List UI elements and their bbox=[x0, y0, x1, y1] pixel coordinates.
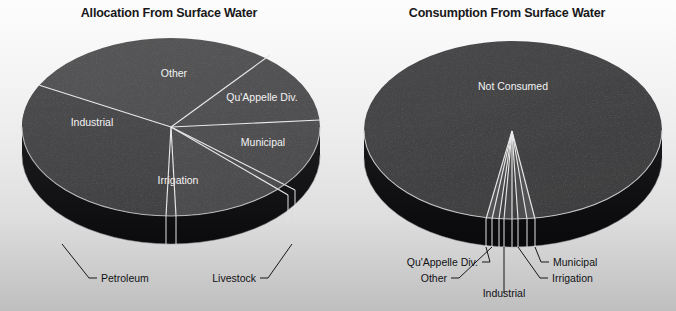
pie-label-irrigation: Irrigation bbox=[158, 174, 199, 186]
pie-slice-municipal-consumed bbox=[512, 131, 535, 219]
pie-label-not-consumed: Not Consumed bbox=[478, 80, 548, 92]
pie-separator-c2 bbox=[492, 131, 512, 219]
pie-separator-other-industrial bbox=[39, 85, 171, 127]
pie-side-allocation bbox=[22, 127, 320, 244]
pie-separator-municipal-quappelle bbox=[171, 120, 320, 127]
pie-top-face-consumption bbox=[364, 41, 662, 219]
pie-slice-quappelle-consumed bbox=[486, 131, 512, 219]
chart-title-consumption: Consumption From Surface Water bbox=[338, 6, 676, 20]
leader-label-petroleum: Petroleum bbox=[101, 272, 149, 284]
pie-top-face-allocation bbox=[22, 38, 320, 216]
pie-slice-irrigation-consumed bbox=[512, 131, 527, 219]
pie-rim-highlight-consumption bbox=[364, 130, 662, 219]
pie-separator-c4 bbox=[504, 131, 512, 219]
pie-charts-layer: Industrial Other Qu'Appelle Div. Municip… bbox=[0, 0, 676, 311]
pie-label-industrial: Industrial bbox=[71, 116, 114, 128]
pie-separator-c1 bbox=[486, 131, 512, 219]
pie-separator-industrial-petroleum bbox=[166, 127, 171, 216]
pie-label-municipal: Municipal bbox=[241, 136, 285, 148]
pie-separator-petroleum-irrigation bbox=[171, 127, 176, 216]
pie-separator-irrigation-livestock bbox=[171, 127, 288, 195]
figure-canvas: Allocation From Surface Water Consumptio… bbox=[0, 0, 676, 311]
pie-separator-c3 bbox=[499, 131, 512, 219]
pie-separator-livestock-municipal bbox=[171, 127, 295, 190]
pie-separator-c8 bbox=[512, 131, 535, 219]
leader-line-quappelle-consumed bbox=[482, 247, 490, 262]
pie-label-quappelle: Qu'Appelle Div. bbox=[226, 91, 297, 103]
pie-separator-c7 bbox=[512, 131, 527, 219]
pie-chart-consumption: Not Consumed Qu'Appelle Div. Other Indus… bbox=[364, 41, 662, 299]
leader-line-municipal-consumed bbox=[535, 247, 549, 262]
pie-rim-highlight-allocation bbox=[22, 127, 320, 216]
leader-line-livestock bbox=[260, 244, 292, 278]
pie-base-highlight-consumption bbox=[364, 158, 662, 247]
pie-slice-industrial bbox=[22, 85, 171, 216]
pie-separator-c6 bbox=[512, 131, 518, 219]
pie-slice-petroleum bbox=[166, 127, 174, 216]
pie-side-consumption bbox=[364, 130, 662, 247]
leader-label-other-consumed: Other bbox=[421, 272, 448, 284]
leader-label-municipal-consumed: Municipal bbox=[553, 256, 597, 268]
leader-line-irrigation-consumed bbox=[518, 247, 548, 278]
leader-label-industrial-consumed: Industrial bbox=[483, 287, 526, 299]
leader-line-other-consumed bbox=[451, 247, 492, 278]
leader-label-livestock: Livestock bbox=[212, 272, 257, 284]
pie-label-other: Other bbox=[161, 67, 188, 79]
pie-slice-other-consumed bbox=[492, 131, 512, 219]
leader-label-irrigation-consumed: Irrigation bbox=[552, 272, 593, 284]
pie-chart-allocation: Industrial Other Qu'Appelle Div. Municip… bbox=[22, 38, 320, 284]
leader-line-petroleum bbox=[62, 244, 97, 278]
leader-label-quappelle-consumed: Qu'Appelle Div. bbox=[407, 256, 478, 268]
pie-slice-industrial-consumed bbox=[504, 131, 512, 219]
pie-separator-quappelle-other bbox=[171, 55, 270, 127]
chart-title-allocation: Allocation From Surface Water bbox=[0, 6, 338, 20]
pie-base-highlight-allocation bbox=[22, 155, 320, 244]
